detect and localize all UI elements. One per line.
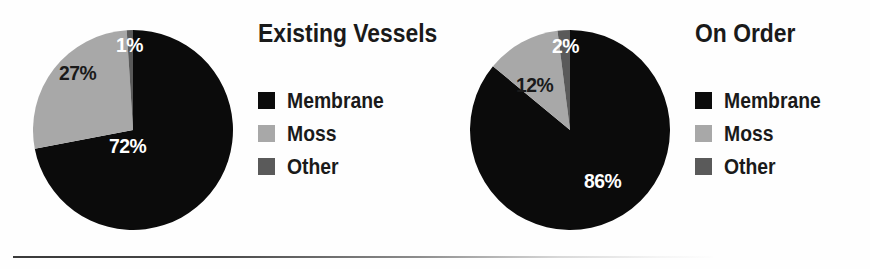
pie-label-other: 1% <box>116 34 143 55</box>
pie-label-membrane: 86% <box>584 170 621 191</box>
legend-swatch-membrane-icon <box>695 92 712 109</box>
chart-title-on-order: On Order <box>695 20 795 46</box>
chart-panel-existing-vessels: 72% 27% 1% Existing Vessels Membrane Mos… <box>0 0 435 250</box>
legend-label-moss: Moss <box>287 123 337 145</box>
legend-existing-vessels: Membrane Moss Other <box>258 84 397 183</box>
legend-swatch-membrane-icon <box>258 92 275 109</box>
pie-svg-on-order <box>470 30 670 230</box>
pie-label-moss: 12% <box>516 74 553 95</box>
legend-label-membrane: Membrane <box>724 90 821 112</box>
legend-swatch-other-icon <box>695 158 712 175</box>
legend-swatch-moss-icon <box>258 125 275 142</box>
legend-label-other: Other <box>287 156 339 178</box>
legend-label-moss: Moss <box>724 123 774 145</box>
legend-item-other[interactable]: Other <box>695 150 834 183</box>
legend-label-membrane: Membrane <box>287 90 384 112</box>
legend-swatch-moss-icon <box>695 125 712 142</box>
legend-swatch-other-icon <box>258 158 275 175</box>
legend-item-moss[interactable]: Moss <box>695 117 834 150</box>
pie-svg-existing-vessels <box>33 30 233 230</box>
pie-chart-on-order: 86% 12% 2% <box>470 30 670 230</box>
legend-item-other[interactable]: Other <box>258 150 397 183</box>
pie-label-moss: 27% <box>59 62 96 83</box>
bottom-divider <box>13 256 713 258</box>
pie-chart-existing-vessels: 72% 27% 1% <box>33 30 233 230</box>
pie-label-other: 2% <box>552 35 579 56</box>
legend-item-moss[interactable]: Moss <box>258 117 397 150</box>
chart-panel-on-order: 86% 12% 2% On Order Membrane Moss Other <box>437 0 870 250</box>
pie-chart-figure: 72% 27% 1% Existing Vessels Membrane Mos… <box>0 0 870 269</box>
pie-label-membrane: 72% <box>109 135 146 156</box>
chart-title-existing-vessels: Existing Vessels <box>258 20 437 46</box>
legend-label-other: Other <box>724 156 776 178</box>
legend-item-membrane[interactable]: Membrane <box>695 84 834 117</box>
legend-item-membrane[interactable]: Membrane <box>258 84 397 117</box>
legend-on-order: Membrane Moss Other <box>695 84 834 183</box>
